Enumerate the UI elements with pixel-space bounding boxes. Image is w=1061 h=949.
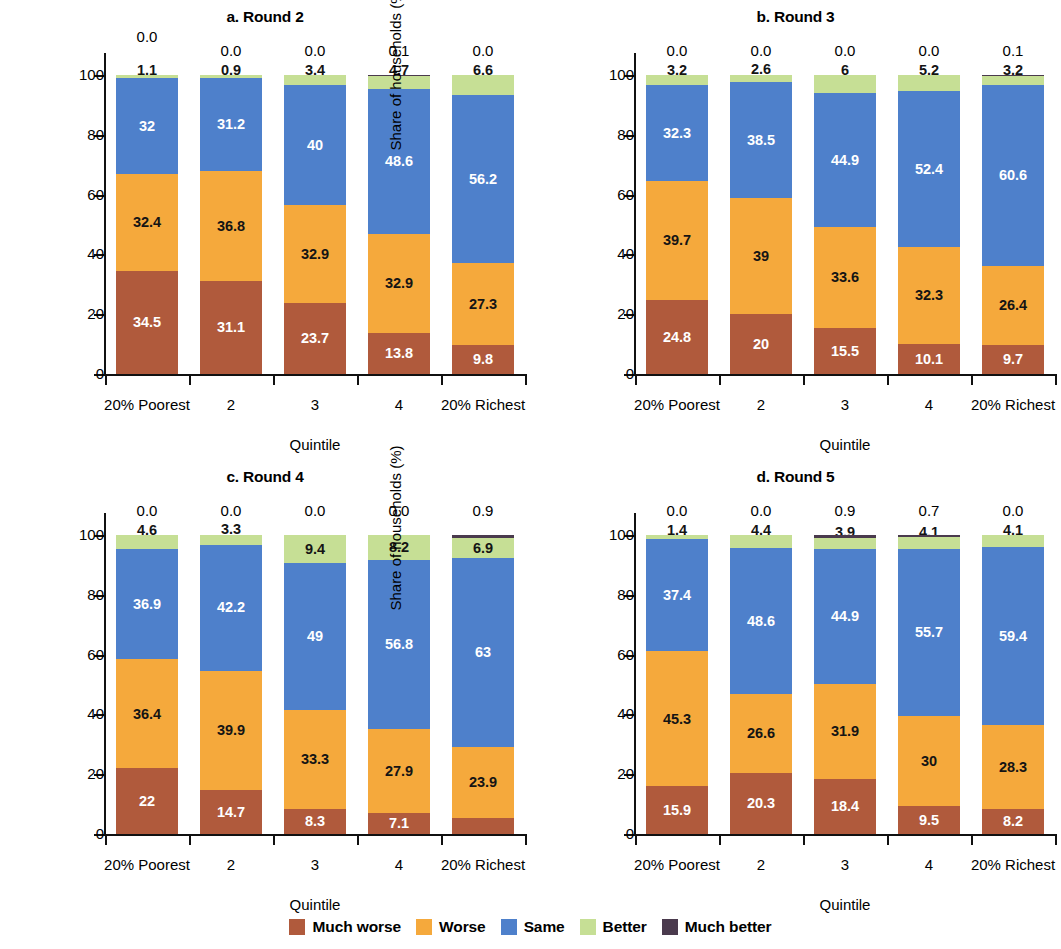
bar-segment-worse[interactable]: 31.9 bbox=[814, 684, 876, 779]
stacked-bar[interactable]: 18.431.944.93.9 bbox=[814, 535, 876, 834]
stacked-bar[interactable]: 5.323.9636.9 bbox=[452, 535, 514, 834]
bar-segment-better[interactable]: 6.9 bbox=[452, 538, 514, 559]
bar-segment-worse[interactable]: 26.6 bbox=[730, 694, 792, 774]
bar-segment-same[interactable]: 44.9 bbox=[814, 93, 876, 227]
bar-segment-much-better[interactable] bbox=[814, 535, 876, 538]
bar-segment-same[interactable]: 52.4 bbox=[898, 91, 960, 248]
stacked-bar[interactable]: 9.53055.74.1 bbox=[898, 535, 960, 834]
bar-segment-much-worse[interactable]: 5.3 bbox=[452, 818, 514, 834]
bar-segment-worse[interactable]: 32.9 bbox=[368, 234, 430, 332]
stacked-bar[interactable]: 10.132.352.45.2 bbox=[898, 75, 960, 374]
bar-segment-much-worse[interactable]: 8.2 bbox=[982, 809, 1044, 834]
bar-segment-worse[interactable]: 32.9 bbox=[284, 205, 346, 303]
bar-segment-much-worse[interactable]: 15.9 bbox=[646, 786, 708, 834]
bar-segment-better[interactable]: 3.9 bbox=[814, 538, 876, 550]
stacked-bar[interactable]: 23.732.9403.4 bbox=[284, 75, 346, 374]
bar-segment-same[interactable]: 56.2 bbox=[452, 95, 514, 263]
bar-segment-much-worse[interactable]: 24.8 bbox=[646, 300, 708, 374]
bar-segment-worse[interactable]: 39.9 bbox=[200, 671, 262, 790]
bar-segment-better[interactable]: 5.2 bbox=[898, 75, 960, 91]
bar-segment-worse[interactable]: 26.4 bbox=[982, 266, 1044, 345]
bar-segment-worse[interactable]: 39 bbox=[730, 198, 792, 315]
bar-segment-same[interactable]: 32 bbox=[116, 78, 178, 174]
bar-segment-worse[interactable]: 23.9 bbox=[452, 747, 514, 818]
bar-segment-worse[interactable]: 33.6 bbox=[814, 227, 876, 327]
stacked-bar[interactable]: 2236.436.94.6 bbox=[116, 535, 178, 834]
bar-segment-much-worse[interactable]: 20.3 bbox=[730, 773, 792, 834]
bar-segment-worse[interactable]: 32.3 bbox=[898, 247, 960, 344]
bar-segment-worse[interactable]: 28.3 bbox=[982, 725, 1044, 810]
bar-segment-same[interactable]: 38.5 bbox=[730, 82, 792, 197]
bar-segment-same[interactable]: 59.4 bbox=[982, 547, 1044, 725]
bar-segment-much-worse[interactable]: 34.5 bbox=[116, 271, 178, 374]
legend-item-worse[interactable]: Worse bbox=[416, 918, 486, 936]
bar-segment-better[interactable]: 3.4 bbox=[284, 75, 346, 85]
bar-segment-much-better[interactable] bbox=[898, 535, 960, 537]
bar-segment-same[interactable]: 63 bbox=[452, 558, 514, 746]
legend-item-same[interactable]: Same bbox=[501, 918, 565, 936]
bar-segment-better[interactable]: 4.4 bbox=[730, 535, 792, 548]
stacked-bar[interactable]: 14.739.942.23.3 bbox=[200, 535, 262, 834]
bar-segment-same[interactable]: 48.6 bbox=[730, 548, 792, 693]
stacked-bar[interactable]: 8.333.3499.4 bbox=[284, 535, 346, 834]
bar-segment-same[interactable]: 44.9 bbox=[814, 549, 876, 683]
bar-segment-much-worse[interactable]: 8.3 bbox=[284, 809, 346, 834]
bar-segment-worse[interactable]: 45.3 bbox=[646, 651, 708, 786]
bar-segment-much-worse[interactable]: 20 bbox=[730, 314, 792, 374]
bar-segment-better[interactable]: 0.9 bbox=[200, 75, 262, 78]
bar-segment-better[interactable]: 6.6 bbox=[452, 75, 514, 95]
bar-segment-better[interactable]: 4.1 bbox=[898, 537, 960, 549]
bar-segment-better[interactable]: 9.4 bbox=[284, 535, 346, 563]
bar-segment-much-worse[interactable]: 18.4 bbox=[814, 779, 876, 834]
bar-segment-much-worse[interactable]: 9.5 bbox=[898, 806, 960, 834]
bar-segment-same[interactable]: 40 bbox=[284, 85, 346, 205]
stacked-bar[interactable]: 15.945.337.41.4 bbox=[646, 535, 708, 834]
bar-segment-much-worse[interactable]: 22 bbox=[116, 768, 178, 834]
stacked-bar[interactable]: 34.532.4321.1 bbox=[116, 75, 178, 374]
bar-segment-better[interactable]: 1.4 bbox=[646, 535, 708, 539]
bar-segment-much-worse[interactable]: 14.7 bbox=[200, 790, 262, 834]
stacked-bar[interactable]: 8.228.359.44.1 bbox=[982, 535, 1044, 834]
bar-segment-much-better[interactable] bbox=[452, 535, 514, 538]
bar-segment-worse[interactable]: 27.9 bbox=[368, 729, 430, 812]
bar-segment-same[interactable]: 55.7 bbox=[898, 549, 960, 716]
bar-segment-better[interactable]: 6 bbox=[814, 75, 876, 93]
bar-segment-better[interactable]: 4.1 bbox=[982, 535, 1044, 547]
bar-segment-better[interactable]: 3.2 bbox=[982, 75, 1044, 85]
stacked-bar[interactable]: 203938.52.6 bbox=[730, 75, 792, 374]
bar-segment-same[interactable]: 31.2 bbox=[200, 78, 262, 171]
bar-segment-worse[interactable]: 39.7 bbox=[646, 181, 708, 300]
bar-segment-better[interactable]: 3.3 bbox=[200, 535, 262, 545]
bar-segment-better[interactable]: 4.6 bbox=[116, 535, 178, 549]
bar-segment-much-worse[interactable]: 15.5 bbox=[814, 328, 876, 374]
legend-item-much-better[interactable]: Much better bbox=[662, 918, 772, 936]
stacked-bar[interactable]: 15.533.644.96 bbox=[814, 75, 876, 374]
legend-item-better[interactable]: Better bbox=[580, 918, 647, 936]
bar-segment-much-worse[interactable]: 23.7 bbox=[284, 303, 346, 374]
bar-segment-worse[interactable]: 36.4 bbox=[116, 659, 178, 768]
bar-segment-worse[interactable]: 33.3 bbox=[284, 710, 346, 810]
stacked-bar[interactable]: 9.827.356.26.6 bbox=[452, 75, 514, 374]
bar-segment-same[interactable]: 49 bbox=[284, 563, 346, 710]
stacked-bar[interactable]: 31.136.831.20.9 bbox=[200, 75, 262, 374]
bar-segment-much-worse[interactable]: 7.1 bbox=[368, 813, 430, 834]
stacked-bar[interactable]: 9.726.460.63.2 bbox=[982, 75, 1044, 374]
bar-segment-much-worse[interactable]: 9.8 bbox=[452, 345, 514, 374]
stacked-bar[interactable]: 20.326.648.64.4 bbox=[730, 535, 792, 834]
bar-segment-much-worse[interactable]: 10.1 bbox=[898, 344, 960, 374]
bar-segment-same[interactable]: 42.2 bbox=[200, 545, 262, 671]
bar-segment-same[interactable]: 60.6 bbox=[982, 85, 1044, 266]
bar-segment-same[interactable]: 37.4 bbox=[646, 539, 708, 651]
bar-segment-worse[interactable]: 36.8 bbox=[200, 171, 262, 281]
bar-segment-worse[interactable]: 32.4 bbox=[116, 174, 178, 271]
bar-segment-worse[interactable]: 30 bbox=[898, 716, 960, 806]
bar-segment-better[interactable]: 3.2 bbox=[646, 75, 708, 85]
stacked-bar[interactable]: 24.839.732.33.2 bbox=[646, 75, 708, 374]
bar-segment-same[interactable]: 32.3 bbox=[646, 85, 708, 182]
bar-segment-same[interactable]: 36.9 bbox=[116, 549, 178, 659]
bar-segment-much-worse[interactable]: 9.7 bbox=[982, 345, 1044, 374]
legend-item-much-worse[interactable]: Much worse bbox=[289, 918, 401, 936]
bar-segment-much-worse[interactable]: 31.1 bbox=[200, 281, 262, 374]
bar-segment-better[interactable]: 2.6 bbox=[730, 75, 792, 83]
bar-segment-better[interactable]: 1.1 bbox=[116, 75, 178, 78]
